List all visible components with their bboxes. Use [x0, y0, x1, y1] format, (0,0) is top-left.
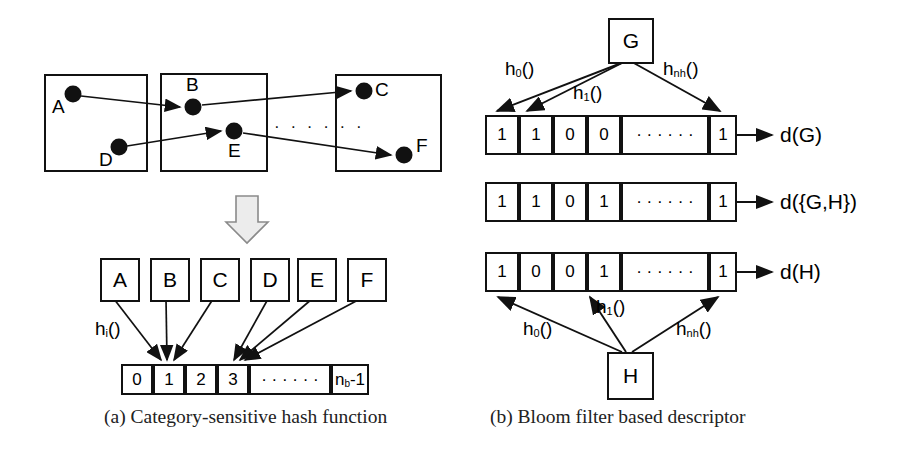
last-cell-suffix: -1 — [350, 370, 365, 389]
row1-bit-2[interactable]: 0 — [553, 115, 587, 155]
hash-fn-name: h — [95, 318, 106, 339]
source-box-H[interactable]: H — [607, 352, 654, 400]
h1-name: h — [573, 82, 584, 103]
item-box-A[interactable]: A — [100, 258, 140, 302]
group-box-1 — [44, 74, 148, 172]
h0-name: h — [505, 58, 516, 79]
node-label-C: C — [375, 80, 389, 99]
bh1-name: h — [596, 296, 607, 317]
panel-b-output-arrows — [737, 135, 772, 272]
panel-a-hash-arrows — [114, 299, 360, 360]
hash-fn-suffix: () — [108, 318, 121, 339]
hash-label-top-h1: h1() — [573, 82, 602, 104]
hnh-name: h — [663, 58, 674, 79]
group-box-2 — [160, 73, 268, 172]
node-label-B: B — [186, 75, 199, 94]
node-label-E: E — [228, 141, 241, 160]
row3-bit-1[interactable]: 0 — [519, 252, 553, 292]
hash-arrow-B — [166, 299, 167, 360]
hash-label-bottom-h0: h0() — [523, 318, 552, 340]
descriptor-label-dGH: d({G,H}) — [780, 190, 857, 214]
bit-cell-last[interactable]: nb-1 — [331, 364, 369, 395]
row1-bit-1[interactable]: 1 — [519, 115, 553, 155]
node-label-F: F — [416, 136, 428, 155]
bh0-suffix: () — [540, 318, 553, 339]
hnh-sub: nh — [674, 67, 686, 79]
hash-label-bottom-h1: h1() — [596, 296, 625, 318]
bhnh-sub: nh — [687, 327, 699, 339]
row2-bit-3[interactable]: 1 — [587, 182, 621, 222]
caption-panel-b: (b) Bloom filter based descriptor — [490, 406, 746, 428]
item-box-C[interactable]: C — [200, 258, 240, 302]
h1-suffix: () — [590, 82, 603, 103]
h0-suffix: () — [522, 58, 535, 79]
item-box-B[interactable]: B — [150, 258, 190, 302]
item-box-F[interactable]: F — [347, 258, 387, 302]
hash-arrow-A — [114, 299, 161, 360]
row2-bit-2[interactable]: 0 — [553, 182, 587, 222]
row1-bit-ellipsis: · · · · · · — [621, 115, 709, 155]
row1-bit-last[interactable]: 1 — [709, 115, 737, 155]
row2-bit-0[interactable]: 1 — [485, 182, 519, 222]
row1-bit-0[interactable]: 1 — [485, 115, 519, 155]
descriptor-label-dG: d(G) — [780, 123, 822, 147]
figure-root: · · · · · · A D B E C F A B C D E F hi()… — [0, 0, 911, 456]
bit-cell-ellipsis: · · · · · · — [249, 364, 331, 395]
bit-cell-3[interactable]: 3 — [217, 364, 249, 395]
bit-cell-2[interactable]: 2 — [185, 364, 217, 395]
bit-cell-1[interactable]: 1 — [153, 364, 185, 395]
descriptor-label-dH: d(H) — [780, 260, 821, 284]
hash-label-top-hnh: hnh() — [663, 58, 698, 80]
node-label-A: A — [52, 97, 65, 116]
hash-function-label-hi: hi() — [95, 318, 121, 340]
hash-label-top-h0: h0() — [505, 58, 534, 80]
row3-bit-last[interactable]: 1 — [709, 252, 737, 292]
hash-arrow-C — [174, 299, 213, 360]
transform-down-arrow — [226, 196, 268, 243]
group-ellipsis: · · · · · · — [274, 117, 365, 137]
hash-label-bottom-hnh: hnh() — [676, 318, 711, 340]
bhnh-name: h — [676, 318, 687, 339]
bh0-name: h — [523, 318, 534, 339]
item-box-E[interactable]: E — [297, 258, 337, 302]
row2-bit-1[interactable]: 1 — [519, 182, 553, 222]
last-cell-name: n — [335, 370, 344, 389]
source-box-G[interactable]: G — [608, 18, 654, 64]
bhnh-suffix: () — [699, 318, 712, 339]
item-box-D[interactable]: D — [250, 258, 290, 302]
row3-bit-ellipsis: · · · · · · — [621, 252, 709, 292]
bh1-suffix: () — [613, 296, 626, 317]
hnh-suffix: () — [686, 58, 699, 79]
bit-cell-0[interactable]: 0 — [121, 364, 153, 395]
row3-bit-0[interactable]: 1 — [485, 252, 519, 292]
row3-bit-2[interactable]: 0 — [553, 252, 587, 292]
row1-bit-3[interactable]: 0 — [587, 115, 621, 155]
row3-bit-3[interactable]: 1 — [587, 252, 621, 292]
caption-panel-a: (a) Category-sensitive hash function — [104, 406, 387, 428]
node-label-D: D — [99, 150, 113, 169]
row2-bit-last[interactable]: 1 — [709, 182, 737, 222]
row2-bit-ellipsis: · · · · · · — [621, 182, 709, 222]
